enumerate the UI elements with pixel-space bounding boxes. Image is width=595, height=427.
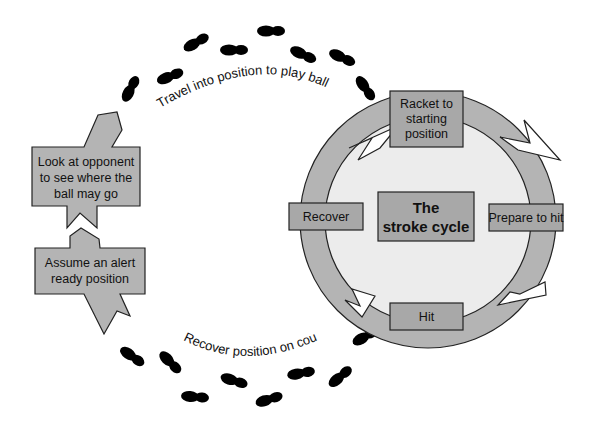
- svg-text:Look at opponent: Look at opponent: [38, 155, 135, 169]
- svg-text:ball may go: ball may go: [54, 187, 118, 201]
- svg-text:starting: starting: [406, 112, 447, 126]
- svg-text:Prepare to hit: Prepare to hit: [488, 211, 564, 225]
- svg-text:to see where the: to see where the: [40, 171, 132, 185]
- svg-text:stroke cycle: stroke cycle: [383, 218, 470, 235]
- center-title-box: The stroke cycle: [378, 192, 474, 241]
- svg-text:ready position: ready position: [51, 272, 129, 286]
- look-at-opponent-callout: Look at opponent to see where the ball m…: [32, 112, 140, 228]
- step-recover: Recover: [289, 203, 363, 230]
- svg-text:The: The: [413, 199, 440, 216]
- footprints-bottom: [118, 323, 411, 409]
- svg-text:Recover: Recover: [303, 210, 350, 224]
- svg-text:Hit: Hit: [419, 310, 435, 324]
- assume-ready-position-callout: Assume an alert ready position: [35, 228, 145, 334]
- step-racket-to-starting-position: Racket to starting position: [390, 91, 463, 147]
- step-hit: Hit: [390, 303, 463, 330]
- stroke-cycle-diagram: Travel into position to play ball Recove…: [0, 0, 595, 427]
- svg-text:position: position: [405, 127, 448, 141]
- svg-text:Racket to: Racket to: [400, 97, 453, 111]
- step-prepare-to-hit: Prepare to hit: [488, 204, 564, 231]
- svg-text:Assume an alert: Assume an alert: [45, 256, 136, 270]
